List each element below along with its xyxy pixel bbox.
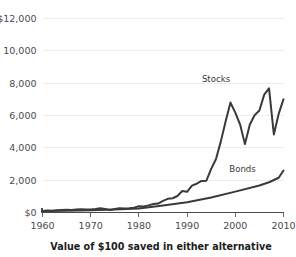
gridlines	[43, 19, 284, 181]
x-axis-tick-labels: 196019701980199020002010	[30, 220, 295, 231]
chart-caption: Value of $100 saved in either alternativ…	[50, 241, 272, 252]
data-series-lines	[43, 88, 284, 211]
x-axis-tick-marks	[43, 213, 284, 217]
series-annotations: StocksBonds	[202, 74, 256, 174]
x-tick-label: 1980	[127, 220, 151, 231]
y-tick-label: 8,000	[9, 78, 36, 89]
y-tick-label: 10,000	[3, 45, 36, 56]
stocks-label: Stocks	[202, 74, 231, 84]
y-tick-label: $12,000	[0, 13, 37, 24]
y-tick-label: 6,000	[9, 110, 36, 121]
x-tick-label: 1960	[30, 220, 54, 231]
bonds-label: Bonds	[229, 164, 256, 174]
y-axis-tick-labels: $02,0004,0006,0008,00010,000$12,000	[0, 13, 37, 218]
line-chart: $02,0004,0006,0008,00010,000$12,000 1960…	[0, 0, 296, 257]
y-tick-label: 2,000	[9, 175, 36, 186]
x-tick-label: 2000	[223, 220, 247, 231]
series-line-bonds	[43, 170, 284, 210]
x-tick-label: 1990	[175, 220, 199, 231]
y-tick-label: 4,000	[9, 142, 36, 153]
chart-container: $02,0004,0006,0008,00010,000$12,000 1960…	[0, 0, 296, 257]
y-tick-label: $0	[24, 207, 36, 218]
x-tick-label: 1970	[79, 220, 103, 231]
series-line-stocks	[43, 88, 284, 211]
x-tick-label: 2010	[271, 220, 295, 231]
